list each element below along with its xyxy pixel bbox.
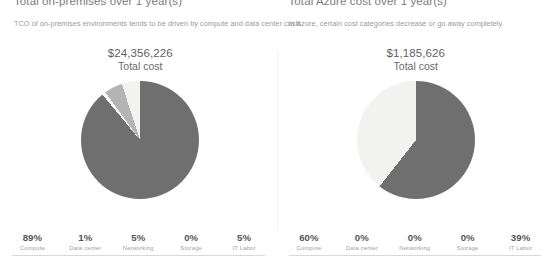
panel-on-premises: Total on-premises over 1 year(s) TCO of … xyxy=(0,0,277,274)
legend-name-networking: Networking xyxy=(388,244,441,252)
legend-pct-it-labor: 39% xyxy=(494,232,547,244)
legend-item-storage: 0% Storage xyxy=(441,232,494,252)
legend-pct-data-center: 0% xyxy=(335,232,388,244)
total-cost-block-on-premises: $24,356,226 Total cost xyxy=(14,46,267,73)
legend-item-it-labor: 5% IT Labor xyxy=(218,232,271,252)
legend-item-data-center: 1% Data center xyxy=(59,232,112,252)
legend-item-compute: 60% Compute xyxy=(283,232,336,252)
legend-item-networking: 0% Networking xyxy=(388,232,441,252)
legend-name-compute: Compute xyxy=(6,244,59,252)
total-cost-label-on-premises: Total cost xyxy=(14,60,267,73)
legend-pct-compute: 89% xyxy=(6,232,59,244)
total-cost-block-azure: $1,185,626 Total cost xyxy=(289,46,544,73)
legend-name-it-labor: IT Labor xyxy=(494,244,547,252)
total-cost-label-azure: Total cost xyxy=(289,60,544,73)
total-cost-amount-azure: $1,185,626 xyxy=(289,46,544,60)
pie-chart-azure[interactable] xyxy=(357,81,475,199)
panel-title-azure: Total Azure cost over 1 year(s) xyxy=(289,0,544,8)
panel-subtitle-on-premises: TCO of on-premises environments tends to… xyxy=(14,19,267,29)
legend-divider-on-premises xyxy=(12,255,265,256)
legend-pct-networking: 0% xyxy=(388,232,441,244)
panel-azure: Total Azure cost over 1 year(s) In Azure… xyxy=(277,0,553,274)
legend-on-premises: 89% Compute 1% Data center 5% Networking… xyxy=(0,232,277,268)
legend-name-storage: Storage xyxy=(441,244,494,252)
legend-name-it-labor: IT Labor xyxy=(218,244,271,252)
legend-item-storage: 0% Storage xyxy=(165,232,218,252)
legend-item-networking: 5% Networking xyxy=(112,232,165,252)
legend-pct-networking: 5% xyxy=(112,232,165,244)
legend-pct-it-labor: 5% xyxy=(218,232,271,244)
pie-chart-on-premises[interactable] xyxy=(81,81,199,199)
legend-name-data-center: Data center xyxy=(59,244,112,252)
legend-name-networking: Networking xyxy=(112,244,165,252)
legend-name-storage: Storage xyxy=(165,244,218,252)
legend-pct-data-center: 1% xyxy=(59,232,112,244)
legend-azure: 60% Compute 0% Data center 0% Networking… xyxy=(277,232,553,268)
panel-subtitle-azure: In Azure, certain cost categories decrea… xyxy=(289,19,544,29)
legend-item-it-labor: 39% IT Labor xyxy=(494,232,547,252)
total-cost-amount-on-premises: $24,356,226 xyxy=(14,46,267,60)
legend-name-data-center: Data center xyxy=(335,244,388,252)
legend-pct-storage: 0% xyxy=(441,232,494,244)
legend-item-data-center: 0% Data center xyxy=(335,232,388,252)
legend-row-azure: 60% Compute 0% Data center 0% Networking… xyxy=(277,232,553,252)
legend-item-compute: 89% Compute xyxy=(6,232,59,252)
legend-row-on-premises: 89% Compute 1% Data center 5% Networking… xyxy=(0,232,277,252)
panel-title-on-premises: Total on-premises over 1 year(s) xyxy=(14,0,267,8)
legend-divider-azure xyxy=(289,255,542,256)
legend-pct-compute: 60% xyxy=(283,232,336,244)
legend-pct-storage: 0% xyxy=(165,232,218,244)
legend-name-compute: Compute xyxy=(283,244,336,252)
tco-cost-comparison-report: Total on-premises over 1 year(s) TCO of … xyxy=(0,0,553,274)
